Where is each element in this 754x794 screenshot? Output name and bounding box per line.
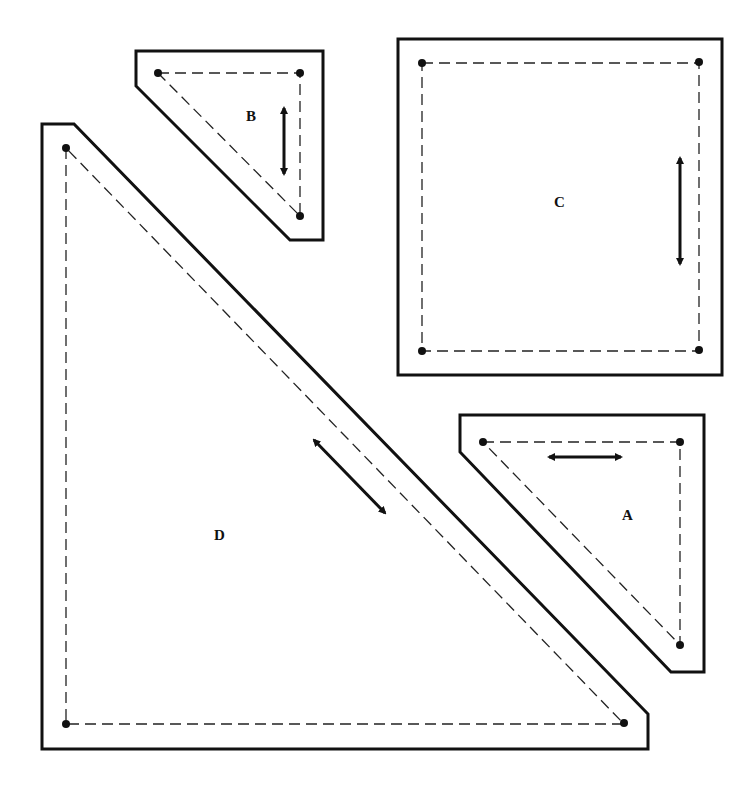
seam-point [62, 720, 70, 728]
seam-point [695, 346, 703, 354]
piece-d: D [42, 124, 648, 749]
seam-point [62, 144, 70, 152]
seam-point [296, 212, 304, 220]
seam-point [620, 719, 628, 727]
piece-b-label: B [246, 108, 256, 124]
seam-point [296, 69, 304, 77]
seam-point [418, 59, 426, 67]
piece-a: A [460, 415, 704, 672]
seam-point [479, 438, 487, 446]
seam-point [695, 58, 703, 66]
piece-c-label: C [554, 194, 565, 210]
piece-d-seam-line [66, 148, 624, 724]
seam-point [676, 438, 684, 446]
seam-point [676, 641, 684, 649]
seam-point [418, 347, 426, 355]
seam-point [154, 69, 162, 77]
piece-c: C [398, 39, 722, 375]
piece-a-cut-line [460, 415, 704, 672]
piece-d-label: D [214, 527, 225, 543]
grainline-arrow-icon [314, 440, 385, 513]
piece-b-seam-line [158, 73, 300, 216]
piece-a-label: A [622, 507, 633, 523]
piece-a-seam-line [483, 442, 680, 645]
piece-b: B [136, 51, 323, 240]
quilt-pattern-diagram: B C A D [0, 0, 754, 794]
